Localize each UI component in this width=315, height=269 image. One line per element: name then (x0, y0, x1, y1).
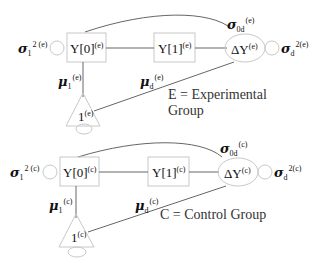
control-group-panel: σ12 (c) Y[0](c) Y[1](c) ΔY(c) σ0d(c) σd2… (10, 140, 302, 257)
var-right-label: σd2(c) (274, 164, 302, 182)
constant-label: 1(e) (78, 109, 94, 124)
cov-label: σ0d(e) (227, 16, 255, 34)
caption-line-2: Group (168, 103, 204, 118)
var-right-label: σd2(e) (281, 40, 309, 58)
covariance-arc (85, 15, 232, 32)
experimental-group-panel: σ12 (e) Y[0](e) Y[1](e) ΔY(e) σ0d(e) σd2… (18, 15, 309, 134)
mu1-label: μ1(c) (49, 197, 73, 215)
y1-label: Y[1](c) (152, 165, 186, 180)
var-left-label: σ12 (c) (10, 164, 40, 182)
y0-label: Y[0](c) (63, 165, 97, 180)
variance-circle-right (258, 165, 272, 179)
variance-circle-right (265, 41, 279, 55)
constant-label: 1(c) (71, 230, 87, 245)
y1-label: Y[1](e) (158, 41, 192, 56)
variance-circle-left (50, 41, 64, 55)
constant-loop (68, 247, 86, 257)
covariance-arc (78, 143, 222, 157)
var-left-label: σ12 (e) (18, 40, 48, 58)
dy-label: ΔY(e) (231, 42, 258, 57)
caption-line-1: E = Experimental (168, 87, 267, 102)
y0-label: Y[0](e) (70, 41, 104, 56)
mud-label: μd(c) (135, 197, 159, 215)
path-diagram: σ12 (e) Y[0](e) Y[1](e) ΔY(e) σ0d(e) σd2… (0, 0, 315, 269)
cov-label: σ0d(c) (220, 140, 248, 158)
dy-label: ΔY(c) (224, 166, 251, 181)
caption-line-1: C = Control Group (160, 207, 266, 222)
variance-circle-left (43, 165, 57, 179)
mu1-label: μ1(e) (58, 73, 82, 91)
